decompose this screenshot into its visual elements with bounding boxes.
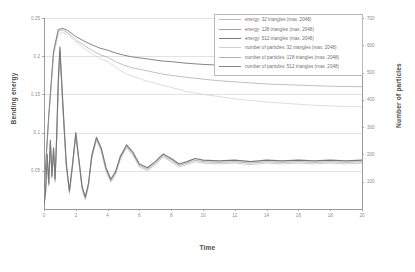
legend-label: number of particles: 128 triangles (max.… [245,55,339,60]
y-tick-label-left: 0.15 [18,92,40,97]
chart-legend: energy: 32 triangles (max. 2048)energy: … [214,14,363,76]
x-tick-label: 12 [226,213,244,218]
x-tick-label: 4 [99,213,117,218]
x-tick-label: 16 [289,213,307,218]
y-axis-left-title: Bending energy [10,64,17,134]
x-tick-label: 0 [35,213,53,218]
legend-item[interactable]: number of particles: 128 triangles (max.… [215,53,362,62]
legend-item[interactable]: number of particles: 512 triangles (max.… [215,62,362,71]
x-axis-title: Time [0,244,415,251]
legend-label: energy: 128 triangles (max. 2048) [245,27,314,32]
x-tick-label: 14 [258,213,276,218]
y-tick-label-left: 0.25 [18,16,40,21]
legend-swatch [219,19,241,20]
x-tick-label: 6 [130,213,148,218]
x-tick-mark [362,209,363,211]
legend-item[interactable]: energy: 512 triangles (max. 2048) [215,34,362,43]
x-tick-label: 10 [194,213,212,218]
legend-swatch [219,57,241,58]
x-tick-label: 18 [321,213,339,218]
legend-item[interactable]: energy: 128 triangles (max. 2048) [215,24,362,33]
legend-label: energy: 32 triangles (max. 2048) [245,17,311,22]
y-tick-label-right: 200 [367,152,391,157]
y-tick-label-right: 400 [367,97,391,102]
y-axis-right-title: Number of particles [395,61,402,131]
legend-swatch [219,29,241,30]
x-tick-label: 8 [162,213,180,218]
x-tick-label: 2 [67,213,85,218]
y-tick-label-right: 700 [367,16,391,21]
legend-item[interactable]: number of particles: 32 triangles (max. … [215,43,362,52]
y-tick-label-right: 300 [367,125,391,130]
y-tick-label-left: 0.1 [18,130,40,135]
y-tick-label-right: 600 [367,43,391,48]
legend-label: energy: 512 triangles (max. 2048) [245,36,314,41]
legend-label: number of particles: 32 triangles (max. … [245,45,337,50]
legend-label: number of particles: 512 triangles (max.… [245,64,339,69]
legend-swatch [219,38,241,39]
legend-swatch [219,47,241,48]
y-tick-label-left: 0.05 [18,168,40,173]
x-tick-label: 20 [353,213,371,218]
y-tick-label-right: 500 [367,70,391,75]
y-tick-label-right: 100 [367,179,391,184]
bending-energy-chart: Bending energy Number of particles Time … [0,0,415,272]
legend-item[interactable]: energy: 32 triangles (max. 2048) [215,15,362,24]
legend-swatch [219,66,241,67]
y-tick-label-left: 0.2 [18,54,40,59]
axis-line [44,209,362,210]
